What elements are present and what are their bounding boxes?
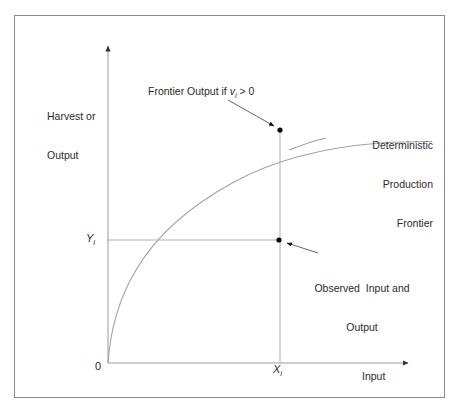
observed-line1: Observed Input and xyxy=(295,282,429,295)
deterministic-frontier-annotation: Deterministic Production Frontier xyxy=(327,113,433,256)
frontier-output-leader-line xyxy=(228,100,274,126)
observed-point xyxy=(276,237,281,242)
frontier-output-variable: vi xyxy=(230,85,237,97)
frontier-output-prefix: Frontier Output if xyxy=(148,85,230,97)
x-axis-title: Input xyxy=(362,370,385,383)
deterministic-leader-line xyxy=(289,138,326,150)
deterministic-line1: Deterministic xyxy=(327,139,433,152)
y-axis-title-line2: Output xyxy=(47,149,95,162)
y-axis-title: Harvest or Output xyxy=(47,84,95,188)
deterministic-line2: Production xyxy=(327,178,433,191)
observed-line2: Output xyxy=(295,321,429,334)
origin-label: 0 xyxy=(95,360,101,373)
deterministic-line3: Frontier xyxy=(327,217,433,230)
figure-root: Harvest or Output Frontier Output if vi … xyxy=(0,0,461,414)
observed-leader-line xyxy=(287,243,318,253)
y-tick-label: Yi xyxy=(86,232,95,249)
x-tick-subscript: i xyxy=(280,369,282,378)
y-tick-subscript: i xyxy=(93,238,95,247)
frontier-output-suffix: > 0 xyxy=(237,85,255,97)
frontier-output-annotation: Frontier Output if vi > 0 xyxy=(148,85,254,102)
frontier-output-point xyxy=(277,127,282,132)
y-axis-title-line1: Harvest or xyxy=(47,110,95,123)
observed-point-annotation: Observed Input and Output xyxy=(295,256,429,360)
x-tick-label: Xi xyxy=(273,363,282,380)
